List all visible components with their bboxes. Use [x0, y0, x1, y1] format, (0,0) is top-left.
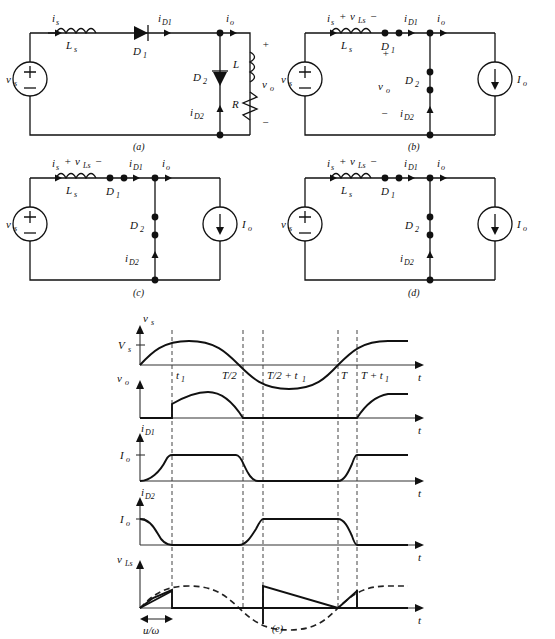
id2-axis-sub: D2	[144, 492, 155, 501]
d2-sub-d: 2	[415, 225, 419, 234]
node-dot-b-top	[427, 30, 434, 37]
source-label-b: v	[281, 73, 286, 85]
marker-label-Tt1: T + t	[361, 369, 384, 381]
vls-x-axis-label: t	[418, 614, 422, 626]
id1-curve	[140, 455, 408, 481]
is-sub-c: s	[56, 163, 59, 172]
d2-label-a: D	[192, 71, 201, 83]
is-label-c: i	[52, 157, 55, 169]
id1-label-a: i	[158, 12, 161, 24]
d2-label-c: D	[129, 219, 138, 231]
vls-axis-sub: Ls	[124, 559, 133, 568]
vls-plus-d: +	[339, 155, 346, 167]
panel-label-e: (e)	[272, 623, 284, 635]
vs-axis-sub: s	[151, 318, 154, 327]
node-dot-a-top	[217, 30, 224, 37]
trace-vo: v o t	[117, 372, 424, 436]
d2-short-dot-c-1	[152, 214, 159, 221]
l-label-a: L	[232, 58, 239, 70]
vls-plus-c: +	[64, 155, 71, 167]
source-label-c: v	[6, 218, 11, 230]
d2-short-dot-b-1	[427, 69, 434, 76]
ls-sub-b: s	[349, 45, 352, 54]
vs-y-arrowhead	[136, 325, 144, 334]
id2-x-axis-label: t	[418, 551, 422, 563]
source-sub-a: s	[14, 79, 17, 88]
vls-solid-seg-4	[338, 591, 357, 608]
node-dot-c-bottom	[152, 277, 159, 284]
source-sub-d: s	[289, 224, 292, 233]
id2-sub-a: D2	[193, 112, 204, 121]
is-label-a: i	[52, 12, 55, 24]
d2-short-dot-d-1	[427, 214, 434, 221]
id1-ytick-label: I	[119, 449, 125, 461]
vls-label-d: v	[350, 155, 355, 167]
vls-label-b: v	[350, 10, 355, 22]
d1-sub-b: 1	[391, 46, 395, 55]
isrc-sub-d: o	[523, 224, 527, 233]
d1-sub-a: 1	[143, 51, 147, 60]
id2-sub-c: D2	[128, 258, 139, 267]
id1-arrow-c	[133, 175, 140, 182]
is-arrow-b	[330, 30, 337, 37]
d1-sub-d: 1	[391, 191, 395, 200]
is-arrow-d	[330, 175, 337, 182]
vo-y-arrowhead	[136, 380, 144, 389]
panel-label-c: (c)	[133, 287, 145, 299]
circuit-panel-a: v s L s i s D 1 i D1 i o D 2 i D	[6, 12, 274, 153]
circuit-panel-c: v s L s i s + v Ls − D 1 i D1 i o D 2 i …	[6, 155, 252, 299]
commutation-label: u/ω	[143, 624, 160, 636]
d1-sub-c: 1	[116, 191, 120, 200]
vo-plus-b: +	[382, 47, 389, 59]
d2-sub-c: 2	[140, 225, 144, 234]
is-arrow-a	[55, 30, 62, 37]
vls-y-arrowhead	[136, 560, 144, 569]
marker-label-t1-sub: 1	[181, 375, 185, 384]
is-sub-a: s	[56, 18, 59, 27]
ls-sub-c: s	[74, 190, 77, 199]
io-label-d: i	[437, 157, 440, 169]
vs-ytick-sub: s	[128, 345, 131, 354]
panel-label-a: (a)	[133, 141, 145, 153]
isrc-arrow-b	[491, 82, 499, 90]
is-arrow-c	[55, 175, 62, 182]
commutation-arrow-left	[140, 615, 148, 623]
id2-label-a: i	[190, 106, 193, 118]
io-sub-d: o	[441, 163, 445, 172]
vo-x-arrowhead	[415, 414, 424, 422]
isrc-arrow-c	[216, 227, 224, 235]
figure-root: v s L s i s D 1 i D1 i o D 2 i D	[0, 0, 555, 639]
vo-axis-label: v	[117, 372, 122, 384]
node-dot-d-top	[427, 175, 434, 182]
vo-axis-sub: o	[125, 378, 129, 387]
d1-short-dot-c-1	[107, 175, 114, 182]
d1-label-c: D	[105, 185, 114, 197]
d1-short-dot-b-1	[382, 30, 389, 37]
id2-sub-b: D2	[403, 113, 414, 122]
vls-sub-c: Ls	[82, 161, 91, 170]
vls-minus-b: −	[370, 10, 377, 22]
vs-x-axis-label: t	[418, 371, 422, 383]
id1-axis-sub: D1	[144, 428, 155, 437]
d2-short-dot-b-2	[427, 87, 434, 94]
ls-label-c: L	[65, 184, 72, 196]
d2-sub-b: 2	[415, 80, 419, 89]
node-dot-c-top	[152, 175, 159, 182]
node-dot-d-bottom	[427, 277, 434, 284]
vls-plus-b: +	[339, 10, 346, 22]
id1-ytick-sub: o	[126, 455, 130, 464]
id2-sub-d: D2	[403, 258, 414, 267]
is-label-d: i	[327, 157, 330, 169]
isrc-sub-b: o	[523, 79, 527, 88]
marker-label-Tt1-sub: 1	[385, 375, 389, 384]
panel-label-b: (b)	[408, 141, 420, 153]
ls-label-a: L	[65, 39, 72, 51]
isrc-label-d: I	[516, 218, 522, 230]
vls-solid-curve	[140, 586, 408, 608]
id1-label-d: i	[404, 157, 407, 169]
source-sub-c: s	[14, 224, 17, 233]
commutation-arrow-right	[165, 615, 173, 623]
id1-label-c: i	[129, 157, 132, 169]
d1-short-dot-d-2	[396, 175, 403, 182]
source-label-d: v	[281, 218, 286, 230]
